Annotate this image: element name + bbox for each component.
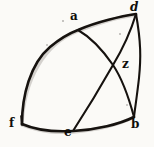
vertex-label-d: d: [130, 1, 138, 13]
right-edge-d-b: [134, 14, 140, 117]
paper-speck: [46, 44, 48, 46]
vertex-label-e: e: [64, 126, 72, 138]
vertex-tick-f: [21, 116, 22, 125]
vertex-label-a: a: [70, 10, 78, 22]
paper-speck: [62, 20, 64, 22]
figure-canvas: a d z b e f: [0, 0, 154, 147]
paper-speck: [126, 104, 128, 106]
paper-speck: [119, 33, 121, 35]
vertex-label-f: f: [9, 117, 14, 129]
vertex-label-z: z: [122, 58, 129, 70]
vertex-label-b: b: [131, 118, 139, 130]
